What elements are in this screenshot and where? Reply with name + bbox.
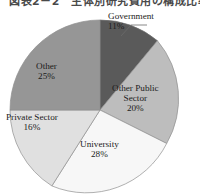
slice-label-private-sector-value: 16% bbox=[6, 123, 58, 133]
pie-chart-graphic bbox=[0, 0, 200, 196]
slice-label-other-value: 25% bbox=[36, 72, 57, 82]
pie-chart-figure: 図表2－2 主体別研究費用の構成比率 Government 11% Other … bbox=[0, 0, 200, 196]
slice-label-government: Government 11% bbox=[108, 12, 154, 32]
slice-label-other-public-sector: Other Public Sector 20% bbox=[112, 84, 159, 114]
slice-label-other: Other 25% bbox=[36, 62, 57, 82]
slice-label-university-value: 28% bbox=[80, 150, 119, 160]
slice-label-private-sector: Private Sector 16% bbox=[6, 113, 58, 133]
slice-label-government-value: 11% bbox=[108, 22, 154, 32]
slice-label-other-public-sector-value: 20% bbox=[112, 104, 159, 114]
slice-label-university: University 28% bbox=[80, 140, 119, 160]
